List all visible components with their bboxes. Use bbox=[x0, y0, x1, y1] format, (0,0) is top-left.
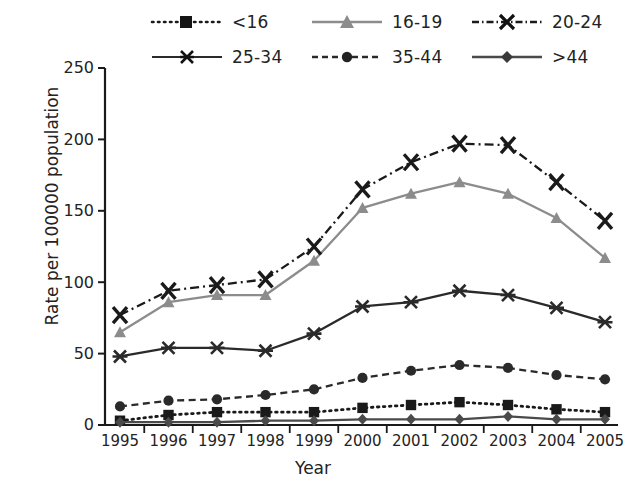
xtick-label-2005: 2005 bbox=[575, 432, 626, 450]
series-20-24 bbox=[113, 136, 612, 323]
series-25-34 bbox=[113, 285, 613, 363]
ytick-label-0: 0 bbox=[34, 415, 94, 434]
y-axis-title: Rate per 100000 population bbox=[42, 56, 62, 356]
series-16-19 bbox=[114, 176, 611, 337]
line-chart: <16 16-19 20-24 bbox=[0, 0, 626, 490]
x-axis-title: Year bbox=[0, 458, 626, 478]
